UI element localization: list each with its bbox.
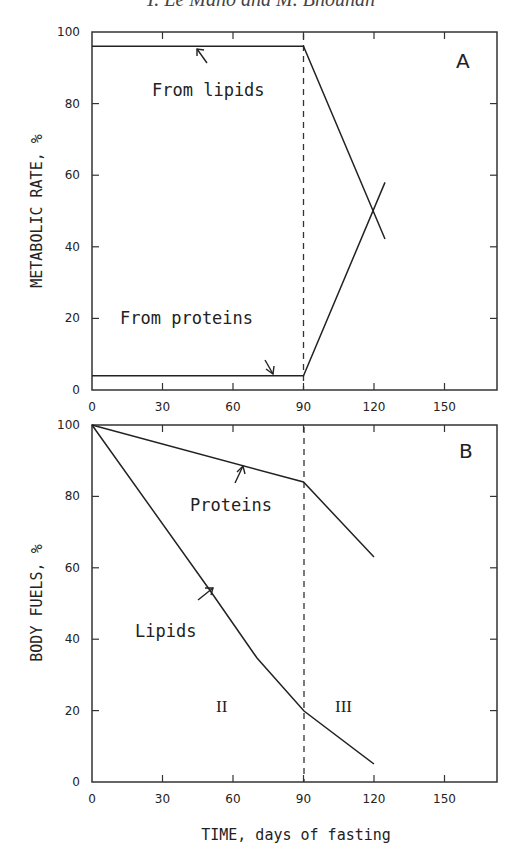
panel-b-xtick-90: 90	[296, 792, 311, 806]
panel-b-xtick-150: 150	[433, 792, 456, 806]
panel-a-y-ticks	[92, 104, 497, 319]
panel-b-ytick-40: 40	[65, 632, 80, 646]
series-from-lipids	[92, 46, 385, 239]
panel-a-ytick-20: 20	[65, 311, 80, 325]
panel-a: 0 20 40 60 80 100 0 30 60 90 120 150 MET…	[28, 25, 497, 414]
panel-a-xtick-0: 0	[88, 400, 96, 414]
arrow-icon-proteins-b	[235, 466, 245, 483]
label-proteins: Proteins	[190, 495, 272, 515]
panel-a-xtick-90: 90	[296, 400, 311, 414]
phase-ii-label: II	[216, 697, 228, 716]
label-lipids: Lipids	[135, 621, 196, 641]
series-from-proteins	[92, 182, 385, 375]
panel-b-xtick-120: 120	[363, 792, 386, 806]
panel-a-xtick-150: 150	[433, 400, 456, 414]
series-proteins	[92, 425, 374, 557]
panel-a-xtick-60: 60	[225, 400, 240, 414]
panel-a-y-axis-title: METABOLIC RATE, %	[28, 134, 46, 288]
panel-b-y-axis-title: BODY FUELS, %	[28, 544, 46, 661]
x-axis-title: TIME, days of fasting	[201, 826, 391, 844]
panel-a-ytick-100: 100	[57, 25, 80, 39]
panel-a-xtick-120: 120	[363, 400, 386, 414]
panel-a-ytick-80: 80	[65, 97, 80, 111]
series-lipids	[92, 425, 374, 764]
panel-a-xtick-30: 30	[155, 400, 170, 414]
panel-b-ytick-80: 80	[65, 489, 80, 503]
panel-a-ytick-0: 0	[72, 383, 80, 397]
panel-b-ytick-60: 60	[65, 561, 80, 575]
label-from-lipids: From lipids	[152, 80, 265, 100]
panel-a-ytick-60: 60	[65, 168, 80, 182]
arrow-icon-lipids-b	[198, 588, 213, 600]
panel-b: 0 20 40 60 80 100 0 30 60 90 120 150 BOD…	[28, 418, 497, 844]
panel-b-xtick-60: 60	[225, 792, 240, 806]
chart-figure: 0 20 40 60 80 100 0 30 60 90 120 150 MET…	[0, 0, 520, 866]
panel-letter-b: B	[459, 439, 473, 463]
panel-b-xtick-30: 30	[155, 792, 170, 806]
panel-b-ytick-0: 0	[72, 775, 80, 789]
panel-b-ytick-100: 100	[57, 418, 80, 432]
panel-letter-a: A	[456, 49, 470, 73]
panel-b-frame	[92, 425, 497, 782]
panel-a-ytick-40: 40	[65, 240, 80, 254]
panel-b-y-ticks	[92, 496, 497, 710]
arrow-icon-lipids	[197, 49, 207, 63]
panel-b-ytick-20: 20	[65, 704, 80, 718]
panel-b-xtick-0: 0	[88, 792, 96, 806]
arrow-icon-proteins	[265, 360, 274, 374]
label-from-proteins: From proteins	[120, 308, 253, 328]
phase-iii-label: III	[335, 697, 352, 716]
